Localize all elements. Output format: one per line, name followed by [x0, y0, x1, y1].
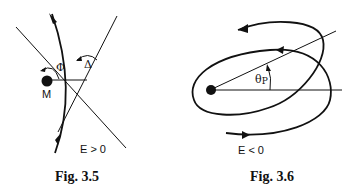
energy-condition-label: E < 0 [238, 144, 264, 156]
hyperbolic-trajectory [52, 14, 66, 153]
figure-caption: Fig. 3.5 [55, 169, 99, 184]
mass-point [206, 85, 216, 95]
mass-point [42, 76, 53, 87]
figure-3-6: θP E < 0 Fig. 3.6 [193, 22, 342, 184]
asymptote-line-1 [16, 27, 126, 148]
mass-label: M [42, 88, 51, 100]
theta-arrow-icon [266, 64, 271, 71]
figure-3-5: M Φ Δ E > 0 Fig. 3.5 [16, 13, 126, 184]
perihelion-axis-line [210, 31, 336, 90]
delta-arrow-icon [76, 56, 82, 61]
orbit-arrow-bottom [242, 131, 250, 139]
orbit-arrow-middle [276, 46, 284, 54]
energy-condition-label: E > 0 [80, 143, 106, 155]
figure-caption: Fig. 3.6 [250, 169, 294, 184]
phi-arrow-icon [40, 67, 46, 72]
asymptote-line-2 [58, 16, 117, 132]
figures-canvas: M Φ Δ E > 0 Fig. 3.5 θP E < 0 Fig. 3.6 [0, 0, 356, 188]
delta-label: Δ [84, 58, 92, 71]
phi-label: Φ [56, 61, 65, 74]
theta-label: θP [255, 73, 268, 86]
